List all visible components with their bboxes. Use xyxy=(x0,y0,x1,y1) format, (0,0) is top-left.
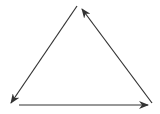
right-arrow xyxy=(82,9,152,103)
left-arrow xyxy=(11,6,77,103)
cycle-triangle-diagram xyxy=(0,0,160,114)
